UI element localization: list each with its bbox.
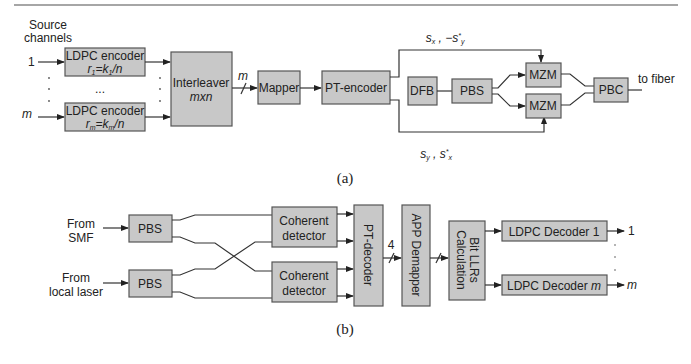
mzm-top-label: MZM: [529, 68, 556, 82]
source-label-line2: channels: [24, 31, 72, 45]
input-1-label: 1: [28, 55, 35, 69]
bit-llr-line1: Bit LLRs: [467, 237, 481, 282]
mapper-label: Mapper: [259, 81, 300, 95]
input-m-label: m: [22, 107, 32, 121]
interleaver-label: Interleaver: [173, 76, 230, 90]
detector-top-line2: detector: [282, 229, 325, 243]
caption-a: (a): [337, 170, 354, 187]
detector-bottom-line1: Coherent: [279, 269, 329, 283]
mzm-bottom-label: MZM: [529, 99, 556, 113]
pbs-tx-label: PBS: [460, 84, 484, 98]
ldpc-encoder-1-label: LDPC encoder: [66, 49, 145, 63]
diagram-b: From SMF From local laser PBS PBS Cohere…: [49, 205, 637, 338]
ldpc-decoder-1-label: LDPC Decoder 1: [509, 225, 600, 239]
output-1-label: 1: [628, 224, 635, 238]
pbs-smf-label: PBS: [138, 222, 162, 236]
from-smf-line2: SMF: [68, 231, 93, 245]
pt-encoder-label: PT-encoder: [325, 81, 387, 95]
ldpc-encoder-m-label: LDPC encoder: [66, 104, 145, 118]
app-demapper-label: APP Demapper: [409, 213, 423, 296]
interleaver-size: mxn: [190, 90, 213, 104]
detector-top-line1: Coherent: [279, 214, 329, 228]
bus-width-label: m: [238, 69, 248, 83]
source-label-line1: Source: [29, 18, 67, 32]
ldpc-decoder-m-label: LDPC Decoder m: [507, 279, 601, 293]
bit-llr-line2: Calculation: [454, 230, 468, 289]
signal-top-label: sx , −s*y: [426, 31, 465, 46]
pt-decoder-label: PT-decoder: [361, 224, 375, 286]
detector-bottom-line2: detector: [282, 284, 325, 298]
pbc-label: PBC: [599, 83, 624, 97]
to-fiber-label: to fiber: [638, 72, 675, 86]
ellipsis: ...: [95, 82, 105, 96]
from-laser-line1: From: [62, 271, 90, 285]
caption-b: (b): [336, 321, 354, 338]
diagram-canvas: Source channels 1 m ... LDPC encoder r1=…: [0, 0, 691, 364]
diagram-a: Source channels 1 m ... LDPC encoder r1=…: [22, 18, 675, 187]
dfb-label: DFB: [410, 84, 434, 98]
from-smf-line1: From: [67, 217, 95, 231]
signal-bottom-label: sy , s*x: [420, 147, 452, 162]
pbs-laser-label: PBS: [138, 277, 162, 291]
from-laser-line2: local laser: [49, 285, 103, 299]
bus-4-label: 4: [388, 238, 395, 252]
output-m-label: m: [627, 278, 637, 292]
